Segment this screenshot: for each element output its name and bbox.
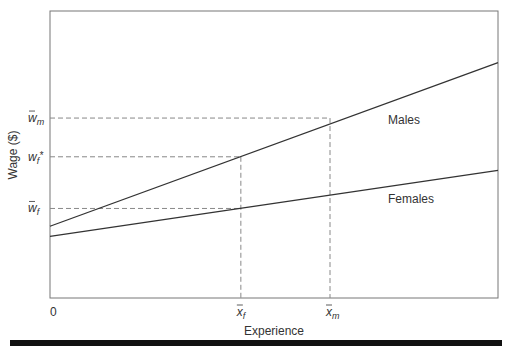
y-level-label-w-m: wm xyxy=(28,111,45,127)
plot-frame xyxy=(50,11,498,298)
wage-experience-chart: wmwf*wfxfxm Wage ($) Experience 0 Males … xyxy=(0,0,508,351)
bottom-rule xyxy=(10,340,502,346)
x-ref-label-x-m: xm xyxy=(325,305,340,321)
y-level-label-w-f: wf xyxy=(28,201,41,217)
x-ref-label-x-f: xf xyxy=(236,305,247,321)
y-level-label-w-f-star: wf* xyxy=(28,150,44,166)
females-line-label: Females xyxy=(388,192,434,206)
x-origin-label: 0 xyxy=(50,305,57,319)
x-axis-label: Experience xyxy=(244,324,304,338)
y-axis-label: Wage ($) xyxy=(6,131,20,180)
males-line-label: Males xyxy=(388,113,420,127)
